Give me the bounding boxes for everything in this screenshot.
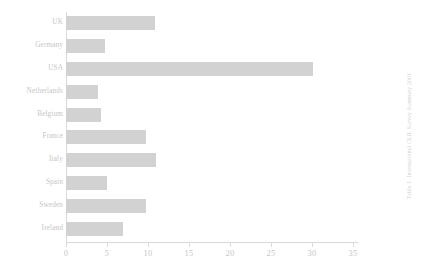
- bar-row: [66, 35, 358, 58]
- category-label: France: [3, 132, 63, 140]
- side-caption: Table 1. International CLIL Survey Summa…: [400, 0, 418, 272]
- x-tick-mark: [353, 243, 354, 247]
- bar: [66, 108, 101, 122]
- bar-row: [66, 126, 358, 149]
- x-tick-label: 5: [94, 249, 120, 258]
- category-label: Germany: [3, 41, 63, 49]
- bar: [66, 130, 146, 144]
- x-tick-label: 25: [258, 249, 284, 258]
- bar: [66, 176, 107, 190]
- bar-row: [66, 217, 358, 240]
- bar-row: [66, 194, 358, 217]
- x-tick-label: 30: [299, 249, 325, 258]
- x-tick-label: 35: [340, 249, 366, 258]
- category-label: Belgium: [3, 110, 63, 118]
- bar-row: [66, 12, 358, 35]
- bar: [66, 153, 156, 167]
- bar: [66, 199, 146, 213]
- bar: [66, 62, 313, 76]
- bar-row: [66, 149, 358, 172]
- x-tick-label: 20: [217, 249, 243, 258]
- bar-chart-figure: UKGermanyUSANetherlandsBelgiumFranceItal…: [0, 0, 424, 272]
- category-label: UK: [3, 18, 63, 26]
- bar-row: [66, 58, 358, 81]
- bar: [66, 16, 155, 30]
- category-label: Sweden: [3, 201, 63, 209]
- category-label: USA: [3, 64, 63, 72]
- bar-row: [66, 103, 358, 126]
- category-label: Netherlands: [3, 87, 63, 95]
- category-label: Spain: [3, 178, 63, 186]
- bar: [66, 85, 98, 99]
- bar-row: [66, 80, 358, 103]
- x-tick-mark: [312, 243, 313, 247]
- x-tick-mark: [107, 243, 108, 247]
- side-caption-text: Table 1. International CLIL Survey Summa…: [406, 73, 412, 199]
- x-tick-mark: [66, 243, 67, 247]
- x-tick-mark: [271, 243, 272, 247]
- bar: [66, 222, 123, 236]
- x-tick-mark: [148, 243, 149, 247]
- category-label: Ireland: [3, 224, 63, 232]
- bar-row: [66, 172, 358, 195]
- x-axis-line: [66, 242, 358, 243]
- x-tick-label: 0: [53, 249, 79, 258]
- x-tick-label: 15: [176, 249, 202, 258]
- x-tick-mark: [230, 243, 231, 247]
- bar: [66, 39, 105, 53]
- category-label: Italy: [3, 155, 63, 163]
- x-tick-label: 10: [135, 249, 161, 258]
- x-tick-mark: [189, 243, 190, 247]
